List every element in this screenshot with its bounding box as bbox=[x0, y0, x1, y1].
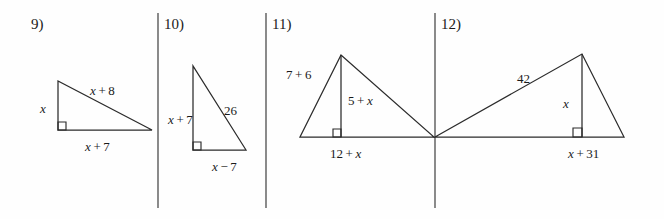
label-12-hypotenuse: 42 bbox=[517, 72, 530, 85]
worksheet-canvas: 9)xx + 8x + 710)x + 726x − 711)7 + 65 + … bbox=[0, 0, 664, 219]
right-angle-marker-10 bbox=[193, 142, 201, 150]
problem-number-9: 9) bbox=[31, 17, 44, 32]
label-12-base-segment: x + 31 bbox=[568, 147, 599, 160]
right-angle-marker-12 bbox=[573, 128, 582, 137]
label-11-left-side: 7 + 6 bbox=[286, 68, 312, 81]
triangle-outline-12 bbox=[435, 54, 624, 137]
label-9-hypotenuse: x + 8 bbox=[90, 84, 115, 97]
right-angle-marker-9 bbox=[58, 122, 66, 130]
label-11-base: 12 + x bbox=[330, 147, 361, 160]
triangle-outline-10 bbox=[193, 66, 246, 150]
label-10-leg-vertical: x + 7 bbox=[168, 113, 193, 126]
label-9-leg-vertical: x bbox=[40, 102, 46, 115]
label-12-altitude: x bbox=[563, 97, 569, 110]
problem-number-11: 11) bbox=[272, 17, 291, 32]
problem-number-12: 12) bbox=[441, 17, 461, 32]
label-10-hypotenuse: 26 bbox=[224, 104, 237, 117]
label-10-leg-horizontal: x − 7 bbox=[212, 160, 237, 173]
problem-number-10: 10) bbox=[164, 17, 184, 32]
label-11-altitude: 5 + x bbox=[348, 94, 373, 107]
label-9-leg-horizontal: x + 7 bbox=[85, 140, 110, 153]
right-angle-marker-11 bbox=[333, 129, 341, 137]
